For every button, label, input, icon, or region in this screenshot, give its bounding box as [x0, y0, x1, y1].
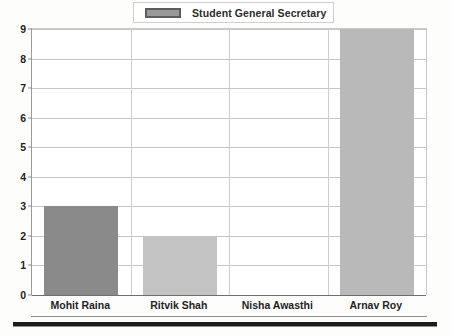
y-tick-mark-2: [28, 235, 32, 236]
y-tick-mark-7: [28, 88, 32, 89]
y-tick-mark-1: [28, 265, 32, 266]
category-divider-2: [229, 29, 230, 295]
y-tick-label-6: 6: [20, 112, 26, 123]
bar-ritvik-shah: [143, 236, 217, 295]
x-axis-label-nisha-awasthi: Nisha Awasthi: [228, 299, 327, 311]
y-tick-mark-8: [28, 58, 32, 59]
legend-swatch-student-general-secretary: [145, 8, 181, 18]
y-tick-mark-5: [28, 147, 32, 148]
y-tick-label-5: 5: [20, 142, 26, 153]
x-axis-labels: Mohit RainaRitvik ShahNisha AwasthiArnav…: [31, 298, 427, 317]
y-tick-mark-3: [28, 206, 32, 207]
y-tick-label-8: 8: [20, 53, 26, 64]
x-axis-label-arnav-roy: Arnav Roy: [327, 299, 426, 311]
category-divider-3: [328, 29, 329, 295]
y-tick-mark-9: [28, 29, 32, 30]
y-tick-mark-6: [28, 117, 32, 118]
y-tick-label-4: 4: [20, 172, 26, 183]
plot-area: 0123456789: [31, 28, 427, 295]
category-divider-1: [131, 29, 132, 295]
y-tick-mark-4: [28, 176, 32, 177]
bar-arnav-roy: [340, 29, 414, 295]
y-tick-label-3: 3: [20, 201, 26, 212]
chart-legend: Student General Secretary: [133, 2, 334, 23]
gridline-y-0: [32, 295, 426, 296]
x-axis-label-ritvik-shah: Ritvik Shah: [130, 299, 229, 311]
y-tick-label-0: 0: [20, 290, 26, 301]
y-tick-label-9: 9: [20, 24, 26, 35]
legend-label: Student General Secretary: [192, 7, 326, 19]
y-tick-label-7: 7: [20, 83, 26, 94]
y-tick-label-1: 1: [20, 260, 26, 271]
x-axis-label-mohit-raina: Mohit Raina: [31, 299, 130, 311]
y-tick-mark-0: [28, 295, 32, 296]
bar-mohit-raina: [44, 206, 118, 295]
y-tick-label-2: 2: [20, 231, 26, 242]
page-bottom-rule: [13, 322, 437, 326]
